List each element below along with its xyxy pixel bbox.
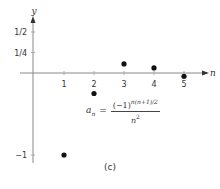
y-tick-label-neg-one: −1 (15, 151, 27, 160)
formula-denominator: n2 (131, 112, 140, 125)
x-tick-label-1: 1 (61, 80, 66, 89)
formula-lhs: an (86, 105, 95, 117)
sequence-plot: 1 2 3 4 5 1/2 1/4 −1 y n (0, 0, 220, 189)
x-tick-label-5: 5 (181, 80, 186, 89)
x-axis-arrow-icon (202, 71, 209, 76)
y-axis-arrow-icon (31, 16, 36, 23)
data-point-n1 (61, 152, 66, 157)
data-point-n5 (181, 74, 186, 79)
x-tick-label-3: 3 (121, 80, 126, 89)
x-tick-label-4: 4 (151, 80, 156, 89)
data-point-n2 (91, 91, 96, 96)
y-axis-label: y (30, 6, 37, 16)
formula-fraction: (−1)n(n+1)/2 n2 (111, 98, 160, 124)
formula-numerator: (−1)n(n+1)/2 (111, 98, 160, 112)
y-tick-label-quarter: 1/4 (14, 49, 27, 58)
formula-annotation: an = (−1)n(n+1)/2 n2 (86, 98, 160, 124)
x-axis-label: n (210, 68, 216, 78)
figure-caption: (c) (104, 162, 116, 172)
data-point-n4 (151, 65, 156, 70)
formula-equals: = (99, 106, 107, 116)
x-tick-label-2: 2 (91, 80, 96, 89)
y-tick-label-half: 1/2 (14, 28, 27, 37)
data-point-n3 (121, 61, 126, 66)
